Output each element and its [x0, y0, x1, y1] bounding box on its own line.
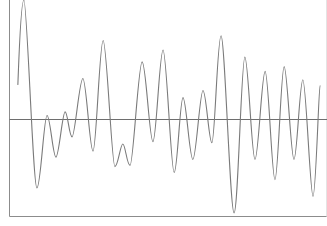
plot-area: [0, 0, 327, 226]
waveform-line: [18, 0, 320, 213]
waveform-chart: [0, 0, 327, 226]
